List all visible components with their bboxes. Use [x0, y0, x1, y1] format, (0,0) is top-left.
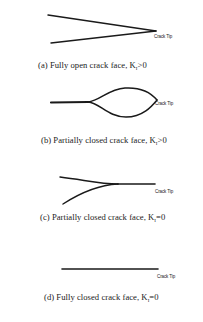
panel-a-crack-tip-label: Crack Tip [154, 34, 172, 39]
panel-c-upper-face [60, 177, 118, 184]
panel-b-caption-text: (b) Partially closed crack face, K [41, 135, 156, 145]
panel-c-crack-tip-label: Crack Tip [155, 189, 173, 194]
panel-a-caption-condition: >0 [138, 60, 147, 70]
panel-b-closed-segment [51, 102, 88, 103]
panel-b-lower-face [88, 100, 157, 117]
panel-d-caption: (d) Fully closed crack face, KI=0 [44, 292, 159, 302]
panel-a-crack-shape [48, 15, 156, 43]
panel-b-caption-condition: >0 [158, 135, 167, 145]
panel-c-caption-text: (c) Partially closed crack face, K [40, 212, 154, 222]
panel-d-crack-tip-label: Crack Tip [157, 274, 175, 279]
panel-a-caption: (a) Fully open crack face, KI>0 [38, 60, 147, 70]
panel-d-caption-condition: =0 [149, 292, 158, 302]
panel-b-upper-face [88, 88, 157, 102]
panel-c-caption-condition: =0 [156, 212, 165, 222]
panel-a-caption-text: (a) Fully open crack face, K [38, 60, 136, 70]
panel-b-caption: (b) Partially closed crack face, KI>0 [41, 135, 167, 145]
panel-c-crack-shape [60, 177, 155, 204]
panel-c-caption: (c) Partially closed crack face, KI=0 [40, 212, 165, 222]
panel-a-lower-face [51, 31, 156, 43]
panel-b-crack-shape [51, 88, 157, 117]
panel-d-caption-text: (d) Fully closed crack face, K [44, 292, 148, 302]
panel-b-crack-tip-label: Crack Tip [155, 101, 173, 106]
panel-c-lower-face [63, 184, 118, 204]
panel-a-upper-face [48, 15, 156, 31]
